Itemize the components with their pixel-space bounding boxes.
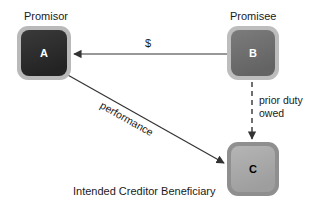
edge-money: $ — [74, 37, 228, 54]
edge-prior-duty-label-line2: owed — [259, 107, 284, 119]
edge-prior-duty-label-line1: prior duty — [259, 94, 304, 106]
node-b-role-label: Promisee — [230, 10, 276, 22]
edge-performance: performance — [66, 74, 224, 163]
node-b[interactable]: Promisee B — [227, 10, 279, 80]
node-a[interactable]: Promisor A — [17, 10, 71, 80]
edge-money-label: $ — [145, 37, 151, 49]
diagram-canvas: $ performance prior duty owed Promisor A… — [0, 0, 325, 209]
diagram-caption: Intended Creditor Beneficiary — [73, 185, 216, 197]
edge-performance-label: performance — [98, 99, 155, 138]
edge-performance-line — [66, 74, 224, 163]
node-a-role-label: Promisor — [24, 10, 68, 22]
edge-prior-duty: prior duty owed — [252, 82, 304, 139]
node-a-letter: A — [40, 47, 48, 59]
node-b-letter: B — [249, 47, 257, 59]
node-c[interactable]: C — [227, 142, 279, 196]
node-c-letter: C — [249, 163, 257, 175]
diagram-svg: $ performance prior duty owed Promisor A… — [0, 0, 325, 209]
